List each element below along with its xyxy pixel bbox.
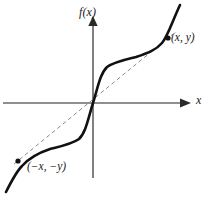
marker-point-negative: [15, 158, 20, 163]
point-label-negative: (−x, −y): [27, 161, 66, 173]
x-axis-arrowhead-icon: [180, 98, 191, 107]
point-label-positive: (x, y): [171, 32, 195, 44]
y-axis-label: f(x): [79, 6, 96, 18]
x-axis-label: x: [196, 94, 201, 106]
marker-point-positive: [165, 35, 170, 40]
x-axis: [3, 98, 191, 107]
odd-function-graph-figure: f(x) x (x, y) (−x, −y): [0, 0, 208, 197]
